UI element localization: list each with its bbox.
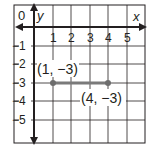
point-1-neg3 (50, 80, 56, 86)
x-tick-3: 3 (87, 31, 94, 45)
x-axis-right-arrow-icon (139, 23, 147, 31)
y-tick-neg5: −5 (12, 113, 26, 127)
x-axis-left-arrow-icon (15, 23, 23, 31)
coordinate-plane: 0 y x 1 2 3 4 5 −1 −2 −3 −4 −5 (1, −3) (… (0, 0, 154, 150)
x-tick-5: 5 (124, 31, 131, 45)
origin-label: 0 (18, 8, 25, 23)
y-tick-neg3: −3 (12, 76, 26, 90)
x-tick-2: 2 (68, 31, 75, 45)
x-tick-labels: 1 2 3 4 5 (50, 31, 131, 45)
y-axis-down-arrow-icon (30, 137, 38, 145)
y-tick-neg1: −1 (12, 39, 26, 53)
x-tick-4: 4 (105, 31, 112, 45)
x-tick-1: 1 (50, 31, 57, 45)
point-4-neg3 (105, 80, 111, 86)
x-axis-label: x (132, 9, 140, 24)
point-label-1-neg3: (1, −3) (37, 61, 78, 77)
y-tick-labels: −1 −2 −3 −4 −5 (12, 39, 31, 127)
y-tick-neg4: −4 (12, 94, 26, 108)
y-axis-label: y (36, 8, 45, 23)
y-tick-neg2: −2 (12, 57, 26, 71)
point-label-4-neg3: (4, −3) (81, 90, 122, 106)
